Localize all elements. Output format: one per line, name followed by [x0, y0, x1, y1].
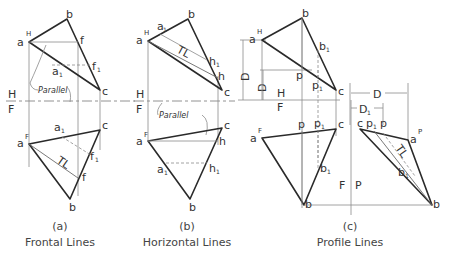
- label-a-sup-profile-c: P: [418, 128, 422, 136]
- label-p1-sub-front-c: 1: [321, 123, 325, 130]
- label-h1-sub-top-b: 1: [216, 61, 220, 68]
- label-c-profile-c: c: [357, 117, 363, 130]
- fold-label-p-c: P: [355, 179, 362, 192]
- fold-label-f-c: F: [277, 101, 283, 114]
- label-a-sup-front-c: F: [258, 127, 262, 135]
- label-c-front: c: [102, 119, 108, 132]
- label-a1-sub-top: 1: [59, 71, 63, 78]
- label-h1-top-b: h: [209, 55, 216, 68]
- label-h1-sub-front-b: 1: [216, 168, 220, 175]
- triangle-top-view-a: [29, 19, 100, 90]
- frontal-line-front-2: [62, 137, 91, 155]
- label-p-top-c: p: [296, 69, 303, 82]
- label-b-top-b: b: [188, 8, 195, 21]
- label-h-top-b: h: [218, 70, 225, 83]
- label-a-front: a: [17, 137, 24, 150]
- panel-horizontal-lines: H F TL a H b a 1 h 1 h c Parallel a F c …: [134, 8, 235, 249]
- caption-title-b: Horizontal Lines: [143, 236, 232, 249]
- label-f-front: f: [82, 171, 87, 184]
- label-b1-front-c: b: [320, 162, 327, 175]
- label-p-profile-c: p: [380, 117, 387, 130]
- caption-letter-b: (b): [179, 220, 195, 233]
- parallel-leader-a: [30, 45, 46, 90]
- label-a1-sub-front-b: 1: [164, 169, 168, 176]
- label-b-front-c: b: [305, 198, 312, 211]
- parallel-note-b: Parallel: [159, 111, 189, 120]
- label-c-front-b: c: [224, 119, 230, 132]
- dim-label-d1-vert: D: [256, 84, 269, 92]
- parallel-note-a: Parallel: [38, 86, 68, 95]
- label-b-top: b: [66, 8, 73, 21]
- label-a-profile-c: a: [410, 133, 417, 146]
- caption-letter-c: (c): [343, 220, 358, 233]
- caption-letter-a: (a): [52, 220, 67, 233]
- label-h1-front-b: h: [209, 162, 216, 175]
- label-c-top: c: [102, 85, 108, 98]
- label-a-sup-top: H: [26, 30, 31, 38]
- fold-label-h-a: H: [8, 88, 16, 101]
- fold-label-h-c: H: [277, 87, 285, 100]
- label-a1-front: a: [54, 121, 61, 134]
- fold-label-f-a: F: [8, 103, 14, 116]
- triangle-profile-view-c: [360, 129, 432, 205]
- dim-label-d-vert: D: [239, 73, 252, 81]
- parallel-arrow-a: [67, 87, 71, 102]
- label-b1-sub-top-c: 1: [326, 46, 330, 53]
- tl-label-a: TL: [53, 153, 73, 172]
- label-b-front-b: b: [189, 201, 196, 214]
- fold-label-h-b: H: [136, 88, 144, 101]
- label-a1-front-b: a: [157, 163, 164, 176]
- label-a-sup-front: F: [25, 133, 29, 141]
- label-p1-sub-profile-c: 1: [373, 123, 377, 130]
- label-a-front-c: a: [250, 132, 257, 145]
- label-a-sup-front-b: F: [144, 131, 148, 139]
- caption-title-a: Frontal Lines: [25, 236, 95, 249]
- caption-title-c: Profile Lines: [317, 236, 384, 249]
- label-b1-sub-front-c: 1: [327, 168, 331, 175]
- label-p1-sub-top-c: 1: [319, 85, 323, 92]
- label-a1-sub-front: 1: [61, 127, 65, 134]
- label-b1-sub-profile-c: 1: [405, 172, 409, 179]
- label-b1-top-c: b: [319, 40, 326, 53]
- label-p1-profile-c: p: [366, 117, 373, 130]
- label-h-front-b: h: [219, 135, 226, 148]
- fold-label-f-b: F: [136, 103, 142, 116]
- panel-profile-lines: H F F P D D a H b b 1 p p 1 c D: [238, 7, 440, 249]
- label-f1-sub-top: 1: [97, 66, 101, 73]
- panel-frontal-lines: H F Parallel a H b f a 1 f 1 c TL a F a …: [6, 8, 135, 249]
- label-b-front: b: [69, 201, 76, 214]
- label-b1-profile-c: b: [398, 166, 405, 179]
- label-a-top: a: [17, 36, 24, 49]
- label-a-sup-top-b: H: [144, 29, 149, 37]
- label-c-top-b: c: [224, 86, 230, 99]
- diagram-svg: H F Parallel a H b f a 1 f 1 c TL a F a …: [0, 0, 449, 256]
- dim-label-d1-sub-horiz: 1: [367, 109, 371, 116]
- label-a-top-c: a: [249, 33, 256, 46]
- label-c-top-c: c: [338, 85, 344, 98]
- fold-label-f2-c: F: [339, 179, 345, 192]
- dim-label-d-horiz: D: [373, 88, 381, 101]
- label-a1-sub-top-b: 1: [163, 26, 167, 33]
- label-c-front-c: c: [338, 118, 344, 131]
- descriptive-geometry-figure: H F Parallel a H b f a 1 f 1 c TL a F a …: [0, 0, 449, 256]
- label-b-top-c: b: [302, 7, 309, 20]
- label-f-top: f: [80, 34, 85, 47]
- label-p1-top-c: p: [312, 79, 319, 92]
- label-b-profile-c: b: [433, 198, 440, 211]
- label-a-sup-top-c: H: [257, 28, 262, 36]
- label-a1-top: a: [52, 65, 59, 78]
- label-a-top-b: a: [136, 34, 143, 47]
- label-a-front-b: a: [136, 135, 143, 148]
- tl-label-b: TL: [174, 43, 193, 61]
- label-p-front-c: p: [298, 118, 305, 131]
- label-f1-sub-front: 1: [95, 156, 99, 163]
- label-p1-front-c: p: [314, 117, 321, 130]
